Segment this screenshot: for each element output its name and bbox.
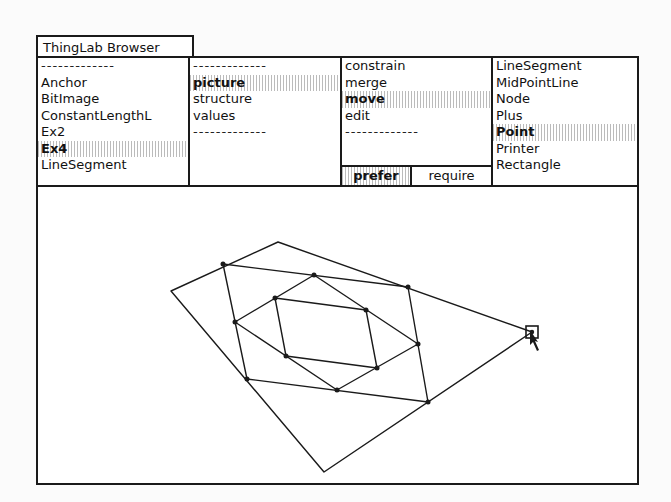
class-item-constantlengthline[interactable]: ConstantLengthL <box>38 108 188 125</box>
operations-pane[interactable]: constrain merge move edit ------------- … <box>342 58 493 185</box>
geometry-drawing[interactable] <box>38 187 637 483</box>
separator: ------------- <box>342 124 491 141</box>
innermost-quadrilateral[interactable] <box>275 298 377 368</box>
aspect-item-values[interactable]: values <box>190 108 340 125</box>
node-point[interactable] <box>416 342 421 347</box>
aspect-item-picture[interactable]: picture <box>190 75 340 92</box>
inner-quadrilateral[interactable] <box>235 275 418 390</box>
require-button[interactable]: require <box>412 167 491 185</box>
node-point[interactable] <box>312 273 317 278</box>
operation-item-constrain[interactable]: constrain <box>342 58 491 75</box>
part-item-node[interactable]: Node <box>493 91 637 108</box>
node-point[interactable] <box>284 354 289 359</box>
constraint-mode-bar: prefer require <box>342 165 491 185</box>
node-point[interactable] <box>375 366 380 371</box>
part-item-point[interactable]: Point <box>493 124 637 141</box>
part-item-printer[interactable]: Printer <box>493 141 637 158</box>
part-item-plus[interactable]: Plus <box>493 108 637 125</box>
class-item-ex2[interactable]: Ex2 <box>38 124 188 141</box>
parts-pane[interactable]: LineSegment MidPointLine Node Plus Point… <box>493 58 637 185</box>
part-item-midpointline[interactable]: MidPointLine <box>493 75 637 92</box>
node-point[interactable] <box>406 285 411 290</box>
node-point[interactable] <box>364 308 369 313</box>
node-point[interactable] <box>273 296 278 301</box>
separator: ------------- <box>38 58 188 75</box>
aspects-pane[interactable]: ------------- picture structure values -… <box>190 58 342 185</box>
node-point[interactable] <box>221 262 226 267</box>
class-item-anchor[interactable]: Anchor <box>38 75 188 92</box>
operation-item-move[interactable]: move <box>342 91 491 108</box>
node-point[interactable] <box>233 320 238 325</box>
part-item-linesegment[interactable]: LineSegment <box>493 58 637 75</box>
class-item-ex4[interactable]: Ex4 <box>38 141 188 158</box>
prefer-button[interactable]: prefer <box>342 167 412 185</box>
node-point[interactable] <box>426 400 431 405</box>
browser-panes: ------------- Anchor BitImage ConstantLe… <box>38 58 637 187</box>
window-title: ThingLab Browser <box>43 40 160 55</box>
operation-item-edit[interactable]: edit <box>342 108 491 125</box>
node-point[interactable] <box>335 388 340 393</box>
classes-pane[interactable]: ------------- Anchor BitImage ConstantLe… <box>38 58 190 185</box>
separator: ------------- <box>190 124 340 141</box>
aspect-item-structure[interactable]: structure <box>190 91 340 108</box>
picture-canvas[interactable] <box>38 187 637 483</box>
separator: ------------- <box>190 58 340 75</box>
class-item-linesegment[interactable]: LineSegment <box>38 157 188 174</box>
class-item-bitimage[interactable]: BitImage <box>38 91 188 108</box>
window-title-tab[interactable]: ThingLab Browser <box>36 35 194 56</box>
node-point[interactable] <box>245 377 250 382</box>
operation-item-merge[interactable]: merge <box>342 75 491 92</box>
thinglab-browser-window: ------------- Anchor BitImage ConstantLe… <box>36 56 639 485</box>
part-item-rectangle[interactable]: Rectangle <box>493 157 637 174</box>
